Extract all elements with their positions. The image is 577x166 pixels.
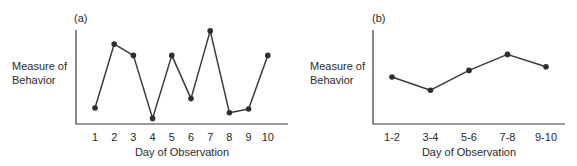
chart-panel-a: (a) Measure of Behavior 12345678910 Day …	[12, 12, 288, 158]
y-axis-label-line1-a: Measure of	[12, 60, 68, 72]
data-points-a	[92, 28, 270, 121]
data-point	[466, 68, 472, 74]
x-tick-label: 5-6	[461, 131, 477, 143]
x-tick-labels-b: 1-23-45-67-89-10	[384, 131, 557, 143]
x-axis-label-b: Day of Observation	[422, 146, 516, 158]
data-point	[131, 53, 137, 59]
data-point	[227, 110, 233, 116]
x-tick-label: 6	[188, 131, 194, 143]
panel-label-a: (a)	[74, 12, 87, 24]
panel-label-b: (b)	[372, 12, 385, 24]
data-point	[505, 52, 511, 58]
data-point	[207, 28, 213, 34]
data-point	[428, 87, 434, 93]
x-tick-labels-a: 12345678910	[92, 131, 274, 143]
chart-panel-b: (b) Measure of Behavior 1-23-45-67-89-10…	[310, 12, 565, 158]
data-point	[543, 64, 549, 70]
figure-two-panel-line-charts: (a) Measure of Behavior 12345678910 Day …	[0, 0, 577, 166]
x-tick-label: 9-10	[535, 131, 557, 143]
y-axis-label-line2-b: Behavior	[310, 74, 354, 86]
x-tick-label: 5	[169, 131, 175, 143]
data-point	[150, 116, 156, 122]
data-point	[188, 96, 194, 102]
x-tick-label: 7	[207, 131, 213, 143]
x-tick-label: 2	[111, 131, 117, 143]
axes-b	[373, 30, 565, 124]
data-point	[111, 41, 117, 47]
data-points-b	[389, 52, 549, 93]
x-tick-label: 10	[262, 131, 274, 143]
y-axis-label-line2-a: Behavior	[12, 74, 56, 86]
x-tick-label: 1-2	[384, 131, 400, 143]
x-tick-label: 7-8	[500, 131, 516, 143]
y-axis-label-line1-b: Measure of	[310, 60, 366, 72]
x-tick-label: 9	[246, 131, 252, 143]
x-tick-label: 3	[130, 131, 136, 143]
x-tick-label: 8	[226, 131, 232, 143]
data-point	[92, 105, 98, 111]
data-point	[265, 53, 271, 59]
data-line-a	[95, 31, 268, 119]
data-point	[169, 53, 175, 59]
data-point	[389, 74, 395, 80]
data-point	[246, 106, 252, 112]
x-axis-label-a: Day of Observation	[135, 146, 229, 158]
x-tick-label: 1	[92, 131, 98, 143]
x-tick-label: 4	[150, 131, 156, 143]
x-tick-label: 3-4	[423, 131, 439, 143]
